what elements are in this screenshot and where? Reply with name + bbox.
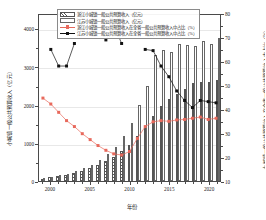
y2-axis-tick [221,14,224,15]
y-axis-minor-tick [36,48,38,49]
series-marker [136,137,139,140]
y-axis-minor-tick [36,163,38,164]
y2-axis-minor-tick [221,50,223,51]
x-axis-minor-tick [42,182,43,184]
y-axis-tick [35,182,38,183]
y-axis-left-title: 小城镇一般公共预算收入（亿元） [5,48,12,168]
x-axis-minor-tick [114,182,115,184]
y2-axis-minor-tick [221,98,223,99]
legend-item-label: 江苏小城镇一般公共预算收入（亿元） [77,18,145,24]
x-axis-minor-tick [217,182,218,184]
series-marker [167,120,170,123]
y2-axis-minor-tick [221,170,223,171]
y2-axis-tick-label: 50 [225,83,230,89]
chart-legend: 浙江小城镇一般公共预算收入（亿元）江苏小城镇一般公共预算收入（亿元）浙江小城镇一… [57,9,200,39]
series-marker [215,117,218,120]
y2-axis-tick [221,182,224,183]
x-axis-minor-tick [106,182,107,184]
y2-axis-minor-tick [221,146,223,147]
series-marker [199,116,202,119]
x-axis-tick [130,182,131,185]
series-marker [183,118,186,121]
y-axis-minor-tick [36,125,38,126]
series-marker [49,48,52,51]
y2-axis-tick [221,38,224,39]
x-axis-minor-tick [66,182,67,184]
series-line [51,43,75,66]
y2-axis-tick-label: 60 [225,59,230,65]
y2-axis-tick [221,62,224,63]
y-axis-tick [35,29,38,30]
y2-axis-minor-tick [221,122,223,123]
legend-item[interactable]: 浙江小城镇一般公共预算收入在全省一般公共预算收入中占比（%） [60,24,197,30]
y-axis-right-title: 小城镇一般公共预算收入在全省一般公共预算收入中占比（%） [261,38,266,170]
legend-swatch-js-icon [60,18,75,23]
legend-swatch-red-icon [60,24,75,29]
legend-swatch-blk-icon [60,31,75,36]
series-marker [191,117,194,120]
series-marker [128,150,131,153]
y-axis-tick-label: 0 [12,179,34,185]
legend-item-label: 浙江小城镇一般公共预算收入（亿元） [77,11,145,17]
series-marker [183,99,186,102]
x-axis-minor-tick [153,182,154,184]
x-axis-tick-label: 2005 [81,186,99,192]
series-marker [120,42,123,45]
y-axis-tick-label: 4000 [12,26,34,32]
series-marker [73,42,76,45]
series-marker [73,125,76,128]
chart-figure: 小城镇一般公共预算收入（亿元） 小城镇一般公共预算收入在全省一般公共预算收入中占… [0,0,265,220]
x-axis-minor-tick [58,182,59,184]
series-marker [120,154,123,157]
y2-axis-minor-tick [221,74,223,75]
x-axis-tick [209,182,210,185]
x-axis-tick-label: 2015 [160,186,178,192]
series-marker [159,119,162,122]
y-axis-minor-tick [36,87,38,88]
y2-axis-tick-label: 10 [225,179,230,185]
plot-area [38,14,221,182]
series-marker [112,152,115,155]
y2-axis-tick-label: 80 [225,11,230,17]
series-marker [152,49,155,52]
y2-axis-tick-label: 40 [225,107,230,113]
x-axis-tick-label: 2010 [121,186,139,192]
series-marker [215,101,218,104]
y2-axis-tick [221,110,224,111]
x-axis-minor-tick [193,182,194,184]
y-axis-tick [35,106,38,107]
legend-item[interactable]: 江苏小城镇一般公共预算收入在全省一般公共预算收入中占比（%） [60,30,197,36]
series-marker [104,149,107,152]
series-marker [65,65,68,68]
series-marker [41,97,44,100]
y-axis-tick-label: 2000 [12,103,34,109]
y2-axis-tick [221,86,224,87]
series-line [145,49,216,107]
y2-axis-tick-label: 20 [225,155,230,161]
y2-axis-tick-label: 30 [225,131,230,137]
legend-swatch-zj-icon [60,12,75,17]
x-axis-minor-tick [161,182,162,184]
series-marker [65,119,68,122]
x-axis-tick [90,182,91,185]
x-axis-minor-tick [98,182,99,184]
series-marker [57,65,60,68]
legend-item-label: 江苏小城镇一般公共预算收入在全省一般公共预算收入中占比（%） [77,30,197,36]
series-marker [175,89,178,92]
series-marker [89,138,92,141]
legend-item[interactable]: 江苏小城镇一般公共预算收入（亿元） [60,18,197,24]
series-marker [49,103,52,106]
x-axis-tick [169,182,170,185]
legend-item[interactable]: 浙江小城镇一般公共预算收入（亿元） [60,11,197,17]
x-axis-tick-label: 2020 [200,186,218,192]
y2-axis-tick [221,158,224,159]
series-marker [207,118,210,121]
x-axis-minor-tick [82,182,83,184]
series-marker [104,38,107,41]
series-marker [199,99,202,102]
series-marker [175,118,178,121]
series-marker [152,120,155,123]
x-axis-minor-tick [177,182,178,184]
series-marker [191,106,194,109]
series-marker [167,75,170,78]
